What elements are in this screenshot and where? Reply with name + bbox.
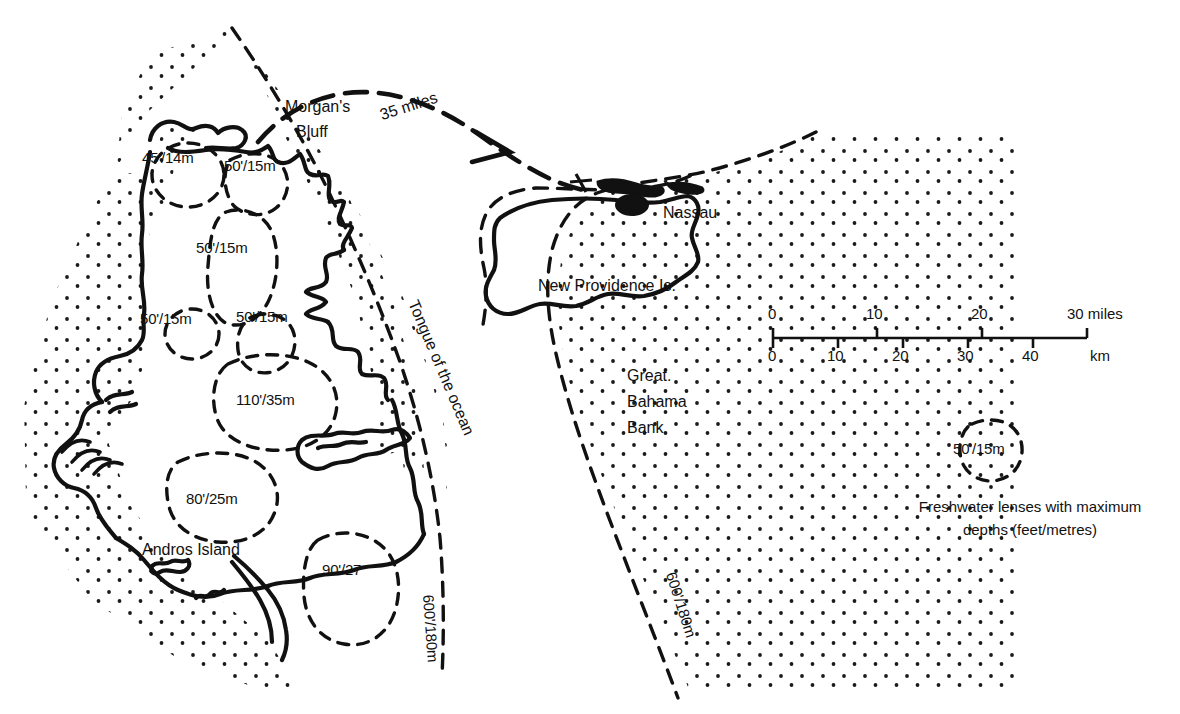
place-label-new-providence: New Providence Is.	[538, 278, 676, 295]
scale-km-tick-20: 20	[892, 348, 909, 364]
lens-label-80-25: 80'/25m	[186, 491, 238, 507]
scale-miles-tick-20: 20	[971, 306, 988, 322]
lens-outline-90-27	[304, 533, 399, 645]
map-figure: 45'/14m 50'/15m 50'/15m 50'/15m 50'/15m …	[0, 0, 1180, 714]
lens-label-50-15-a: 50'/15m	[224, 158, 276, 174]
legend-symbol-label: 50'/15m	[953, 441, 1005, 457]
lens-label-50-15-c: 50'/15m	[140, 311, 192, 327]
place-label-morgans-bluff-line1: Morgan's	[285, 99, 350, 116]
lens-label-50-15-b: 50'/15m	[196, 240, 248, 256]
scale-km-tick-30: 30	[957, 348, 974, 364]
lens-label-90-27: 90'/27	[322, 562, 361, 578]
place-label-morgans-bluff-line2: Bluff	[296, 124, 328, 141]
place-label-great-bahama-bank-line3: Bank	[627, 420, 663, 437]
contour-600ft-west	[232, 28, 443, 676]
scale-km-tick-10: 10	[827, 348, 844, 364]
lens-label-45-14: 45'/14m	[142, 150, 194, 166]
nassau-settlement-marker	[615, 194, 649, 216]
place-label-great-bahama-bank-line2: Bahama	[627, 394, 687, 411]
scale-km-tick-40: 40	[1022, 348, 1039, 364]
scale-km-unit: km	[1090, 348, 1110, 364]
scale-miles-tick-0: 0	[768, 306, 776, 322]
scale-km-tick-0: 0	[768, 348, 776, 364]
stipple-shallow-bank-east	[556, 134, 1020, 692]
place-label-andros-island: Andros Island	[142, 542, 240, 559]
legend-caption-line2: depths (feet/metres)	[890, 521, 1170, 540]
place-label-nassau: Nassau	[663, 205, 717, 222]
scale-miles-tick-10: 10	[866, 306, 883, 322]
contour-label-600-180-west: 600'/180m	[420, 594, 440, 663]
lens-label-110-35: 110'/35m	[236, 392, 295, 408]
lens-label-50-15-d: 50'/15m	[236, 309, 288, 325]
legend-caption-line1: Freshwater lenses with maximum	[890, 498, 1170, 517]
map-canvas	[0, 0, 1180, 714]
scale-miles-unit: 30 miles	[1067, 306, 1123, 322]
place-label-great-bahama-bank-line1: Great.	[627, 368, 671, 385]
